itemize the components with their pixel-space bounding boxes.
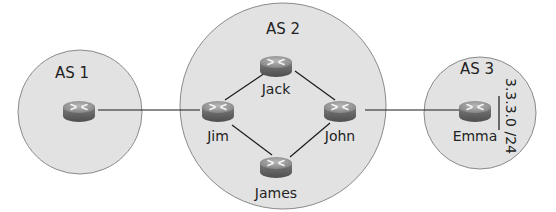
as3-label: AS 3 <box>460 60 494 78</box>
router-icon-jack <box>260 56 292 77</box>
router-label-jack: Jack <box>261 81 291 97</box>
prefix-label: 3.3.3.0 /24 <box>503 78 519 154</box>
router-label-emma: Emma <box>453 128 498 144</box>
network-diagram: AS 1 AS 2 AS 3 Jack Jim John James Emma … <box>0 0 556 212</box>
as2-label: AS 2 <box>266 20 300 38</box>
router-icon-jim <box>202 101 234 122</box>
router-label-james: James <box>254 185 297 201</box>
router-label-jim: Jim <box>206 128 229 144</box>
router-label-john: John <box>324 128 355 144</box>
router-icon-as1 <box>63 101 95 122</box>
as1-label: AS 1 <box>55 64 89 82</box>
router-icon-emma <box>459 101 491 122</box>
router-icon-john <box>324 101 356 122</box>
router-icon-james <box>260 157 292 178</box>
